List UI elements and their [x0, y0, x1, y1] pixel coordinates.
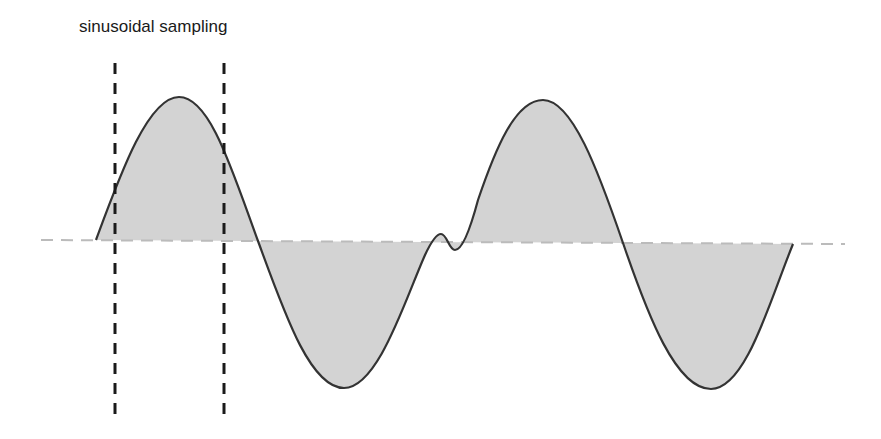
diagram-canvas: sinusoidal sampling [0, 0, 881, 439]
waveform-svg [0, 0, 881, 439]
